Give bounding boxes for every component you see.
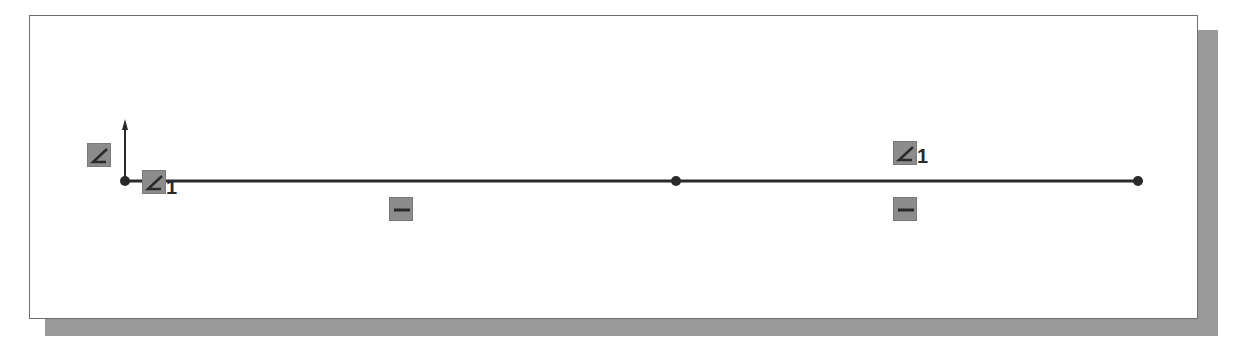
origin-point[interactable] [120,176,130,186]
midpoint[interactable] [671,176,681,186]
horizontal-relation-icon[interactable] [389,197,413,221]
sketch-canvas: 1 1 [0,0,1237,346]
relation-index-label: 1 [917,146,928,166]
sketch-geometry [0,0,1237,346]
origin-axis-icon [122,119,128,181]
coincident-relation-icon[interactable] [142,170,166,194]
endpoint[interactable] [1133,176,1143,186]
coincident-relation-icon[interactable] [893,141,917,165]
horizontal-relation-icon[interactable] [893,197,917,221]
relation-index-label: 1 [166,177,177,197]
coincident-relation-icon[interactable] [87,143,111,167]
